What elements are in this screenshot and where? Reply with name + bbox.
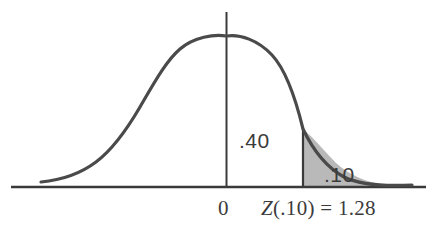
area-label-left: .40 (239, 130, 270, 151)
x-axis-tick-label-origin: 0 (218, 198, 229, 219)
z-symbol: Z (261, 196, 273, 220)
critical-value-label: Z(.10) = 1.28 (261, 198, 376, 219)
critical-value-expression: (.10) = 1.28 (273, 196, 376, 220)
area-label-tail: .10 (324, 164, 355, 185)
normal-distribution-figure: .40 .10 0 Z(.10) = 1.28 (0, 0, 438, 234)
